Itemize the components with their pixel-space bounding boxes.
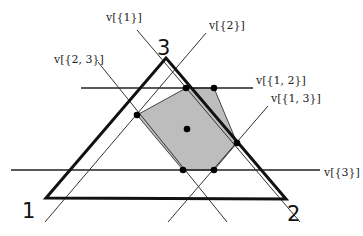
label-v13: v[{1, 3}]: [270, 92, 321, 105]
vertex-label-3: 3: [157, 36, 170, 60]
label-v2: v[{2}]: [208, 19, 245, 32]
vertex-dot: [183, 85, 190, 92]
vertex-dot: [134, 112, 141, 119]
vertex-label-2: 2: [287, 202, 300, 226]
vertex-dot: [211, 167, 218, 174]
vertex-dot: [180, 167, 187, 174]
vertex-dot: [211, 85, 218, 92]
vertex-label-1: 1: [22, 199, 35, 223]
label-v23: v[{2, 3}]: [53, 53, 104, 66]
vertex-dot: [234, 140, 241, 147]
polytope-diagram: v[{1, 2}]v[{3}]v[{1}]v[{2, 3}]v[{2}]v[{1…: [0, 0, 363, 236]
center-dot: [184, 126, 191, 133]
label-v1: v[{1}]: [105, 11, 142, 24]
label-v12: v[{1, 2}]: [255, 74, 306, 87]
label-v3: v[{3}]: [323, 166, 360, 179]
